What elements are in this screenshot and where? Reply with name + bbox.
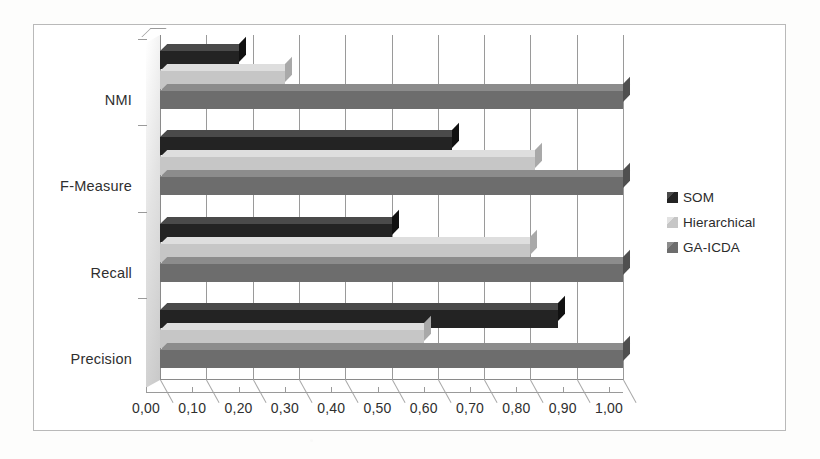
- x-axis-tick-label: 0,20: [225, 400, 253, 416]
- bar-ga-icda: [160, 177, 623, 195]
- x-axis-tick-label: 0,60: [410, 400, 438, 416]
- bar-top-facet: [160, 150, 542, 157]
- bar-front-facet: [160, 350, 623, 368]
- legend-label-hierarchical: Hierarchical: [683, 215, 755, 230]
- bar-top-facet: [160, 84, 630, 91]
- category-axis-label: F-Measure: [60, 178, 132, 194]
- category-axis-tick: [138, 212, 147, 213]
- legend-label-som: SOM: [683, 190, 714, 205]
- category-axis-tick: [138, 298, 147, 299]
- bar-end-facet: [623, 249, 630, 274]
- chart-figure-frame: 0,000,100,200,300,400,500,600,700,800,90…: [33, 24, 786, 431]
- legend-item-som[interactable]: SOM: [667, 185, 787, 210]
- category-axis-label: Recall: [91, 265, 133, 281]
- bar-top-facet: [160, 257, 630, 264]
- x-axis-tick-label: 0,40: [317, 400, 345, 416]
- category-axis-tick: [138, 125, 147, 126]
- category-axis-tick: [138, 39, 147, 40]
- x-axis-tick-label: 0,50: [363, 400, 391, 416]
- legend-item-hierarchical[interactable]: Hierarchical: [667, 210, 787, 235]
- bar-ga-icda: [160, 264, 623, 282]
- x-axis-tick-label: 0,80: [502, 400, 530, 416]
- bar-end-facet: [623, 77, 630, 102]
- x-axis-tick-label: 0,90: [549, 400, 577, 416]
- depth-connector-line: [623, 380, 636, 403]
- category-axis-label: Precision: [71, 351, 132, 367]
- bar-front-facet: [160, 91, 623, 109]
- bar-end-facet: [623, 163, 630, 188]
- bar-top-facet: [160, 237, 538, 244]
- bar-front-facet: [160, 264, 623, 282]
- legend-swatch-icon-som: [667, 192, 678, 203]
- bar-top-facet: [160, 217, 399, 224]
- legend-swatch-icon-ga-icda: [667, 242, 678, 253]
- plot-left-3d-panel: [146, 35, 160, 388]
- category-axis-label: NMI: [105, 92, 132, 108]
- x-axis-tick-label: 0,70: [456, 400, 484, 416]
- bar-top-facet: [160, 303, 565, 310]
- x-axis-tick-label: 0,30: [271, 400, 299, 416]
- x-axis-tick-label: 0,10: [178, 400, 206, 416]
- legend-label-ga-icda: GA-ICDA: [683, 240, 740, 255]
- chart-legend: SOM Hierarchical GA-ICDA: [667, 185, 787, 260]
- x-axis-tick-label: 0,00: [132, 400, 160, 416]
- bar-top-facet: [160, 44, 246, 51]
- x-axis-tick-label: 1,00: [595, 400, 623, 416]
- bar-front-facet: [160, 177, 623, 195]
- bar-ga-icda: [160, 91, 623, 109]
- legend-swatch-icon-hierarchical: [667, 217, 678, 228]
- bar-top-facet: [160, 170, 630, 177]
- bar-end-facet: [623, 336, 630, 361]
- bar-top-facet: [160, 343, 630, 350]
- bar-top-facet: [160, 323, 431, 330]
- legend-item-ga-icda[interactable]: GA-ICDA: [667, 235, 787, 260]
- bar-top-facet: [160, 64, 292, 71]
- bar-ga-icda: [160, 350, 623, 368]
- value-axis-line: [146, 392, 623, 393]
- bar-top-facet: [160, 130, 459, 137]
